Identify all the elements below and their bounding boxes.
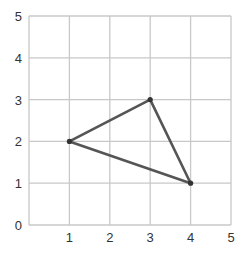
- x-tick-label: 4: [187, 230, 194, 245]
- coordinate-grid-chart: 012345 12345: [0, 0, 248, 253]
- grid-lines: [29, 16, 231, 225]
- y-tick-label: 2: [15, 134, 22, 149]
- x-axis-tick-labels: 12345: [66, 230, 235, 245]
- x-tick-label: 2: [106, 230, 113, 245]
- vertex-point: [67, 139, 72, 144]
- y-tick-label: 0: [15, 218, 22, 233]
- x-tick-label: 1: [66, 230, 73, 245]
- vertex-point: [148, 97, 153, 102]
- y-tick-label: 5: [15, 9, 22, 24]
- x-tick-label: 5: [227, 230, 234, 245]
- y-axis-tick-labels: 012345: [15, 9, 22, 233]
- x-tick-label: 3: [147, 230, 154, 245]
- vertex-point: [188, 181, 193, 186]
- y-tick-label: 4: [15, 51, 22, 66]
- y-tick-label: 1: [15, 176, 22, 191]
- y-tick-label: 3: [15, 93, 22, 108]
